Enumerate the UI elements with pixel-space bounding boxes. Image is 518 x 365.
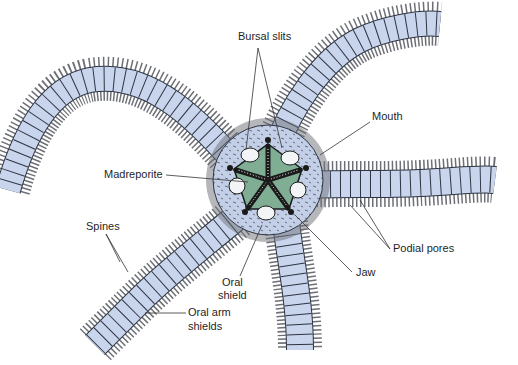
label-bursal-slits: Bursal slits [238,30,291,42]
brittle-star-illustration [0,0,518,365]
label-jaw: Jaw [356,266,376,278]
label-oral-arm-shields-line2: shields [188,320,222,332]
label-podial-pores: Podial pores [393,242,454,254]
label-oral-arm-shields-line1: Oral arm [188,306,231,318]
brittle-star-diagram: Bursal slits Mouth Madreporite Spines Po… [0,0,518,365]
label-spines: Spines [86,220,120,232]
mouth [265,177,271,183]
label-madreporite: Madreporite [104,168,163,180]
label-mouth: Mouth [372,110,403,122]
label-oral-shield-line2: shield [218,289,247,301]
label-oral-shield-line1: Oral [222,276,243,288]
